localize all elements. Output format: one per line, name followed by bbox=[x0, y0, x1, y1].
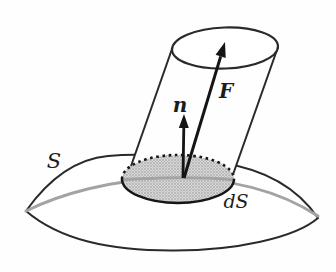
label-ds: dS bbox=[223, 190, 248, 212]
label-f-vector: F bbox=[218, 79, 235, 103]
label-surface-s: S bbox=[47, 149, 61, 173]
n-arrow-shaft bbox=[183, 127, 184, 178]
figure-canvas: S dS n F bbox=[0, 0, 336, 272]
flux-diagram: S dS n F bbox=[0, 0, 336, 272]
label-n-vector: n bbox=[173, 93, 188, 117]
